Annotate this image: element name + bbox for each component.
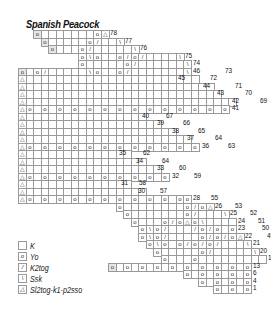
- yarn-over-cell: o: [221, 105, 230, 114]
- legend-item-sl2tog: △Sl2tog-k1-p2sso: [18, 284, 91, 295]
- row-number-label: 52: [250, 209, 257, 217]
- row-number-label: 25: [230, 209, 237, 217]
- row-number-label: 37: [187, 134, 194, 142]
- yarn-over-cell: o: [161, 173, 170, 182]
- row-number-label: 73: [225, 67, 232, 75]
- row-number-label: 43: [217, 89, 224, 97]
- row-number-label: 38: [172, 127, 179, 135]
- yarn-over-cell: o: [243, 285, 252, 294]
- row-number-label: 76: [140, 44, 147, 52]
- row-number-label: 65: [198, 127, 205, 135]
- row-number-label: 77: [125, 37, 132, 45]
- row-number-label: 75: [185, 52, 192, 60]
- row-number-label: 21: [253, 239, 260, 247]
- row-number-label: 66: [183, 119, 190, 127]
- row-number-label: 26: [215, 202, 222, 210]
- chart-title: Spanish Peacock: [26, 18, 99, 30]
- row-number-label: 19: [268, 254, 272, 262]
- row-number-label: 46: [193, 67, 200, 75]
- k2tog-icon: /: [18, 263, 27, 272]
- yarn-over-icon: o: [18, 252, 27, 261]
- row-number-label: 69: [260, 97, 267, 105]
- legend: K oYo /K2tog \Ssk △Sl2tog-k1-p2sso: [18, 240, 91, 295]
- row-number-label: 36: [202, 142, 209, 150]
- row-number-label: 49: [267, 232, 271, 240]
- row-number-label: 71: [235, 82, 242, 90]
- yarn-over-cell: o: [191, 143, 200, 152]
- row-number-label: 23: [238, 224, 245, 232]
- row-number-label: 44: [203, 82, 210, 90]
- legend-item-k2tog: /K2tog: [18, 262, 91, 273]
- knit-icon: [18, 241, 27, 250]
- row-number-label: 59: [194, 172, 201, 180]
- ssk-icon: \: [18, 274, 27, 283]
- row-number-label: 64: [215, 134, 222, 142]
- row-number-label: 22: [245, 232, 252, 240]
- row-number-label: 63: [228, 142, 235, 150]
- row-number-label: 60: [179, 164, 186, 172]
- row-number-label: 72: [210, 74, 217, 82]
- row-number-label: 39: [157, 119, 164, 127]
- row-number-label: 28: [193, 194, 200, 202]
- triangle-icon: △: [18, 285, 27, 294]
- row-number-label: 33: [157, 164, 164, 172]
- row-number-label: 78: [110, 29, 117, 37]
- legend-item-yo: oYo: [18, 251, 91, 262]
- row-number-label: 32: [172, 172, 179, 180]
- row-number-label: 20: [260, 247, 267, 255]
- row-number-label: 70: [245, 89, 252, 97]
- row-number-label: 41: [232, 104, 239, 112]
- row-number-label: 30: [138, 187, 145, 195]
- row-number-label: 1: [253, 284, 257, 292]
- row-number-label: 57: [160, 187, 167, 195]
- row-number-label: 35: [119, 149, 126, 157]
- row-number-label: 34: [136, 157, 143, 165]
- row-number-label: 62: [143, 149, 150, 157]
- row-number-label: 67: [166, 112, 173, 120]
- row-number-label: 45: [178, 74, 185, 82]
- legend-item-ssk: \Ssk: [18, 273, 91, 284]
- row-number-label: 40: [142, 112, 149, 120]
- legend-item-k: K: [18, 240, 91, 251]
- row-number-label: 31: [121, 179, 128, 187]
